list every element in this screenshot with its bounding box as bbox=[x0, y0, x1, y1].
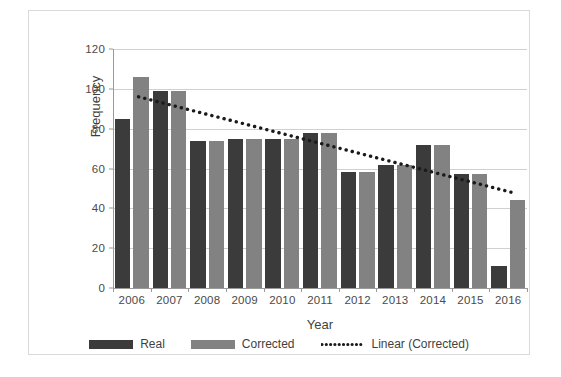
chart-frame: Frequency 020406080100120 20062007200820… bbox=[28, 10, 530, 355]
bar-group-2015 bbox=[454, 49, 488, 288]
bar-real-2010 bbox=[265, 139, 280, 288]
x-tick-mark-0 bbox=[113, 288, 114, 292]
x-tick-mark-7 bbox=[376, 288, 377, 292]
bar-corrected-2014 bbox=[434, 145, 449, 288]
y-axis-title: Frequency bbox=[88, 37, 103, 177]
bar-real-2015 bbox=[454, 174, 469, 288]
bar-real-2006 bbox=[115, 119, 130, 288]
x-tick-mark-10 bbox=[489, 288, 490, 292]
legend-label-corrected: Corrected bbox=[242, 337, 295, 351]
y-tick-label-120: 120 bbox=[85, 43, 105, 55]
x-tick-label-2006: 2006 bbox=[119, 294, 145, 306]
x-tick-label-2013: 2013 bbox=[382, 294, 408, 306]
bar-corrected-2012 bbox=[359, 172, 374, 288]
bar-corrected-2013 bbox=[397, 165, 412, 288]
x-tick-mark-9 bbox=[452, 288, 453, 292]
x-tick-label-2010: 2010 bbox=[269, 294, 295, 306]
legend-label-real: Real bbox=[140, 337, 165, 351]
x-tick-mark-8 bbox=[414, 288, 415, 292]
bar-real-2011 bbox=[303, 133, 318, 288]
y-tick-label-80: 80 bbox=[92, 123, 105, 135]
bar-corrected-2008 bbox=[209, 141, 224, 288]
x-axis-title: Year bbox=[113, 317, 527, 332]
bar-group-2011 bbox=[303, 49, 337, 288]
x-tick-mark-6 bbox=[339, 288, 340, 292]
bar-group-2016 bbox=[491, 49, 525, 288]
bar-group-2014 bbox=[416, 49, 450, 288]
bar-corrected-2015 bbox=[472, 174, 487, 288]
dotted-line-icon bbox=[321, 340, 365, 349]
x-tick-label-2008: 2008 bbox=[194, 294, 220, 306]
y-tick-label-0: 0 bbox=[98, 282, 105, 294]
x-tick-mark-4 bbox=[264, 288, 265, 292]
x-tick-label-2015: 2015 bbox=[457, 294, 483, 306]
bar-corrected-2009 bbox=[246, 139, 261, 288]
legend-swatch-corrected-icon bbox=[191, 340, 235, 349]
bar-real-2013 bbox=[378, 165, 393, 288]
bar-group-2009 bbox=[228, 49, 262, 288]
bar-real-2016 bbox=[491, 266, 506, 288]
x-tick-label-2016: 2016 bbox=[495, 294, 521, 306]
legend-item-corrected: Corrected bbox=[191, 337, 295, 351]
x-tick-mark-2 bbox=[188, 288, 189, 292]
y-tick-label-60: 60 bbox=[92, 163, 105, 175]
y-tick-label-100: 100 bbox=[85, 83, 105, 95]
bar-real-2012 bbox=[341, 172, 356, 288]
legend-swatch-real-icon bbox=[89, 340, 133, 349]
y-tick-label-40: 40 bbox=[92, 202, 105, 214]
bars-layer bbox=[113, 49, 527, 288]
bar-group-2008 bbox=[190, 49, 224, 288]
x-tick-mark-3 bbox=[226, 288, 227, 292]
x-tick-label-2009: 2009 bbox=[232, 294, 258, 306]
chart-legend: Real Corrected Linear (Corrected) bbox=[29, 337, 529, 351]
bar-group-2007 bbox=[153, 49, 187, 288]
bar-group-2013 bbox=[378, 49, 412, 288]
bar-corrected-2006 bbox=[133, 77, 148, 288]
legend-item-linear-corrected: Linear (Corrected) bbox=[321, 337, 469, 351]
bar-group-2010 bbox=[265, 49, 299, 288]
bar-corrected-2011 bbox=[321, 133, 336, 288]
bar-real-2009 bbox=[228, 139, 243, 288]
bar-corrected-2007 bbox=[171, 91, 186, 288]
x-tick-label-2012: 2012 bbox=[344, 294, 370, 306]
category-axis: 2006200720082009201020112012201320142015… bbox=[113, 288, 527, 314]
plot-area: 020406080100120 bbox=[113, 49, 527, 288]
x-tick-label-2011: 2011 bbox=[307, 294, 333, 306]
x-tick-mark-1 bbox=[151, 288, 152, 292]
x-tick-label-2007: 2007 bbox=[156, 294, 182, 306]
x-tick-mark-5 bbox=[301, 288, 302, 292]
legend-item-real: Real bbox=[89, 337, 165, 351]
bar-real-2008 bbox=[190, 141, 205, 288]
bar-real-2007 bbox=[153, 91, 168, 288]
bar-real-2014 bbox=[416, 145, 431, 288]
legend-label-linear-corrected: Linear (Corrected) bbox=[372, 337, 469, 351]
legend-swatch-dotted-line-icon bbox=[321, 340, 365, 349]
bar-corrected-2016 bbox=[510, 200, 525, 288]
y-tick-label-20: 20 bbox=[92, 242, 105, 254]
x-tick-mark-end bbox=[527, 288, 528, 292]
bar-group-2012 bbox=[341, 49, 375, 288]
bar-corrected-2010 bbox=[284, 139, 299, 288]
bar-group-2006 bbox=[115, 49, 149, 288]
x-tick-label-2014: 2014 bbox=[420, 294, 446, 306]
